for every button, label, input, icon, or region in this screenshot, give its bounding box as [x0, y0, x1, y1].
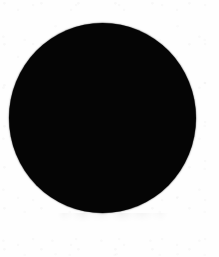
scan-smudge-artifact	[57, 213, 169, 223]
black-circle-shape	[9, 23, 196, 213]
figure-canvas: Solid black filled circle on a plain whi…	[0, 0, 219, 257]
